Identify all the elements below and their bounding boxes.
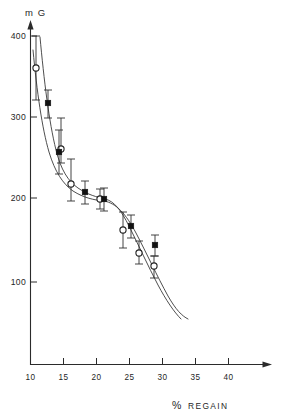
y-axis-arrowhead <box>27 20 33 30</box>
x-tick-group: 10 15 20 25 30 35 40 <box>26 358 234 382</box>
data-point-marker <box>68 181 74 187</box>
x-tick-label-30: 30 <box>158 373 168 382</box>
figure-panel: 400 300 200 100 m G 10 15 20 25 30 35 40… <box>0 0 282 419</box>
data-point-marker <box>136 250 142 256</box>
data-point-marker <box>128 223 134 229</box>
data-point-marker <box>151 263 157 269</box>
data-point-marker <box>45 100 51 106</box>
data-point-marker <box>152 242 158 248</box>
upper-curve <box>33 50 188 319</box>
y-tick-label-100: 100 <box>11 277 26 287</box>
axes-group <box>27 20 272 368</box>
x-axis-title-symbol: % <box>172 399 182 411</box>
data-point-marker <box>101 196 107 202</box>
x-tick-label-15: 15 <box>59 373 69 382</box>
x-tick-label-35: 35 <box>191 373 201 382</box>
data-point-marker <box>33 65 39 71</box>
x-tick-label-20: 20 <box>92 373 102 382</box>
fitted-curves-group <box>33 37 188 319</box>
data-point-marker <box>56 149 62 155</box>
y-tick-label-200: 200 <box>11 193 26 203</box>
data-point-marker <box>120 227 126 233</box>
data-point-marker <box>82 189 88 195</box>
x-tick-label-25: 25 <box>125 373 135 382</box>
x-axis-arrowhead <box>263 361 273 367</box>
x-axis-title-word: REGAIN <box>188 401 229 411</box>
y-tick-label-400: 400 <box>11 31 26 41</box>
chart-canvas: 400 300 200 100 m G 10 15 20 25 30 35 40… <box>0 0 282 419</box>
y-axis-title: m G <box>25 7 46 18</box>
x-tick-label-10: 10 <box>26 373 36 382</box>
filled-square-series-group <box>44 90 159 256</box>
y-tick-label-300: 300 <box>11 112 26 122</box>
x-axis-title: % REGAIN <box>172 399 229 411</box>
x-tick-label-40: 40 <box>224 373 234 382</box>
